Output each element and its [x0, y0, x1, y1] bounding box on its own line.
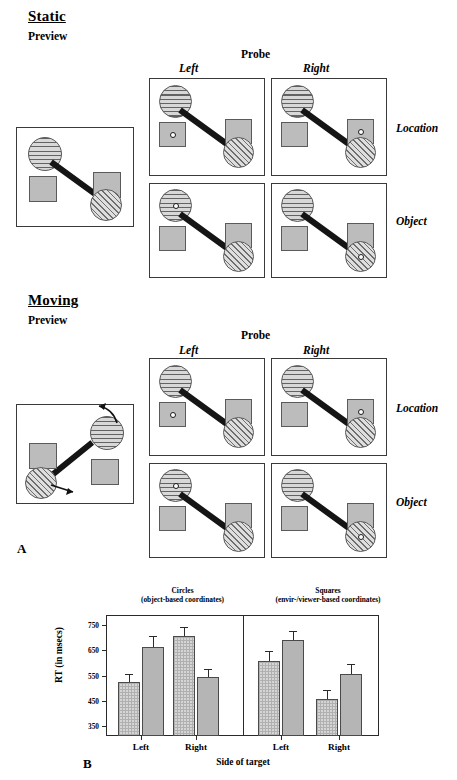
error-bar	[351, 664, 352, 674]
chart-group-header-circles: Circles (object-based coordinates)	[120, 586, 245, 604]
bar-static-left	[258, 661, 280, 736]
rt-bar-chart: Circles (object-based coordinates) Squar…	[0, 0, 457, 780]
error-bar	[153, 636, 154, 647]
x-tick-mark	[196, 736, 197, 740]
error-bar	[208, 669, 209, 677]
group-divider	[243, 615, 244, 736]
error-bar	[129, 674, 130, 682]
x-tick-label: Left	[111, 742, 171, 752]
x-tick-mark	[141, 736, 142, 740]
x-tick-label: Right	[309, 742, 369, 752]
error-bar	[269, 651, 270, 661]
error-bar-cap	[149, 636, 157, 637]
y-tick-mark	[102, 726, 106, 727]
y-axis-title: RT (in msecs)	[53, 611, 67, 683]
x-tick-label: Right	[166, 742, 226, 752]
group-header-line2: (object-based coordinates)	[141, 595, 224, 604]
group-header-line1: Circles	[171, 586, 193, 595]
y-tick-label: 350	[73, 722, 99, 731]
x-tick-label: Left	[251, 742, 311, 752]
chart-group-header-squares: Squares (envir-/viewer-based coordinates…	[248, 586, 408, 604]
y-tick-mark	[102, 650, 106, 651]
bar-moving-right	[197, 677, 219, 736]
y-tick-mark	[102, 625, 106, 626]
error-bar	[293, 631, 294, 640]
error-bar	[327, 690, 328, 699]
error-bar-cap	[180, 627, 188, 628]
bar-static-right	[173, 636, 195, 736]
error-bar-cap	[204, 669, 212, 670]
bar-moving-left	[282, 640, 304, 736]
y-tick-label: 750	[73, 621, 99, 630]
bar-moving-right	[340, 674, 362, 736]
bar-static-right	[316, 699, 338, 736]
group-header-line2: (envir-/viewer-based coordinates)	[275, 595, 380, 604]
error-bar-cap	[347, 664, 355, 665]
y-tick-mark	[102, 676, 106, 677]
figure-root: Static Preview Probe Left Right Location…	[0, 0, 457, 780]
y-tick-label: 550	[73, 672, 99, 681]
y-tick-label: 650	[73, 646, 99, 655]
y-tick-label: 450	[73, 697, 99, 706]
x-axis-title: Side of target	[168, 757, 318, 767]
x-tick-mark	[339, 736, 340, 740]
group-header-line1: Squares	[315, 586, 340, 595]
error-bar	[184, 627, 185, 637]
error-bar-cap	[323, 690, 331, 691]
error-bar-cap	[289, 631, 297, 632]
y-tick-mark	[102, 701, 106, 702]
error-bar-cap	[125, 674, 133, 675]
bar-static-left	[118, 682, 140, 736]
bar-moving-left	[142, 647, 164, 736]
error-bar-cap	[265, 651, 273, 652]
x-tick-mark	[281, 736, 282, 740]
